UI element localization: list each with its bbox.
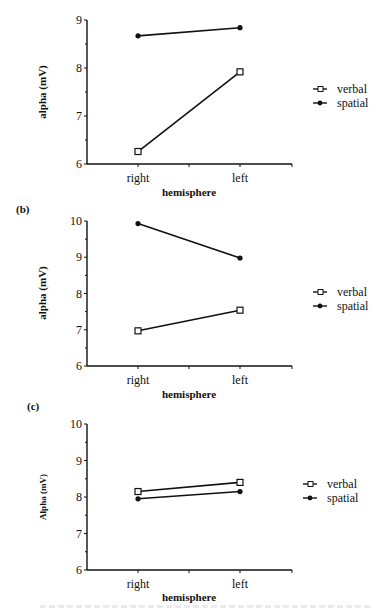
x-tick-label: right <box>127 171 150 185</box>
series-line-spatial <box>138 28 240 36</box>
y-tick-label: 8 <box>76 287 82 301</box>
legend-label-spatial: spatial <box>337 299 369 313</box>
chart-panel-3: 678910rightlefthemisphereAlpha (mV)(c)ve… <box>27 400 359 603</box>
y-tick-label: 6 <box>76 359 82 373</box>
y-tick-label: 9 <box>76 13 82 27</box>
y-axis-title: Alpha (mV) <box>38 474 48 520</box>
legend-label-verbal: verbal <box>327 477 358 491</box>
y-tick-label: 8 <box>76 490 82 504</box>
data-point-dot <box>135 496 140 501</box>
data-point-dot <box>135 33 140 38</box>
legend-dot-icon <box>308 496 313 501</box>
series-line-verbal <box>138 482 240 491</box>
legend-dot-icon <box>318 304 323 309</box>
panel-label: (b) <box>16 203 30 216</box>
legend-label-verbal: verbal <box>337 82 368 96</box>
x-tick-label: right <box>127 373 150 387</box>
legend-dot-icon <box>318 101 323 106</box>
data-point-square <box>135 489 141 495</box>
x-axis-title: hemisphere <box>162 591 216 603</box>
chart-panel-1: 6789rightlefthemispherealpha (mV)verbals… <box>36 13 369 198</box>
y-tick-label: 8 <box>76 61 82 75</box>
data-point-square <box>237 69 243 75</box>
data-point-dot <box>237 255 242 260</box>
legend-label-verbal: verbal <box>337 285 368 299</box>
y-axis-title: alpha (mV) <box>36 266 49 320</box>
y-tick-label: 10 <box>70 417 82 431</box>
data-point-dot <box>237 25 242 30</box>
chart-panel-2: 678910rightlefthemispherealpha (mV)(b)ve… <box>16 203 369 400</box>
y-tick-label: 10 <box>70 214 82 228</box>
y-tick-label: 7 <box>76 109 82 123</box>
x-tick-label: left <box>232 577 249 591</box>
y-tick-label: 7 <box>76 323 82 337</box>
x-tick-label: left <box>232 373 249 387</box>
x-axis-title: hemisphere <box>162 186 216 198</box>
legend: verbalspatial <box>313 285 369 313</box>
x-tick-label: right <box>127 577 150 591</box>
data-point-square <box>135 328 141 334</box>
y-tick-label: 7 <box>76 527 82 541</box>
y-tick-label: 6 <box>76 157 82 171</box>
x-tick-label: left <box>232 171 249 185</box>
data-point-dot <box>237 489 242 494</box>
y-tick-label: 6 <box>76 563 82 577</box>
legend-square-icon <box>318 290 323 295</box>
y-tick-label: 9 <box>76 454 82 468</box>
series-line-spatial <box>138 492 240 499</box>
series-line-verbal <box>138 310 240 331</box>
x-axis-title: hemisphere <box>162 388 216 400</box>
series-line-verbal <box>138 72 240 152</box>
series-line-spatial <box>138 224 240 258</box>
data-point-dot <box>135 221 140 226</box>
y-tick-label: 9 <box>76 250 82 264</box>
legend: verbalspatial <box>303 477 359 505</box>
data-point-square <box>135 149 141 155</box>
figure-caption-cutoff <box>40 605 370 608</box>
legend-label-spatial: spatial <box>337 96 369 110</box>
data-point-square <box>237 307 243 313</box>
legend: verbalspatial <box>313 82 369 110</box>
legend-square-icon <box>308 482 313 487</box>
legend-square-icon <box>318 87 323 92</box>
legend-label-spatial: spatial <box>327 491 359 505</box>
panel-label: (c) <box>27 400 40 413</box>
y-axis-title: alpha (mV) <box>36 65 49 119</box>
data-point-square <box>237 479 243 485</box>
figure-canvas: 6789rightlefthemispherealpha (mV)verbals… <box>0 0 379 611</box>
